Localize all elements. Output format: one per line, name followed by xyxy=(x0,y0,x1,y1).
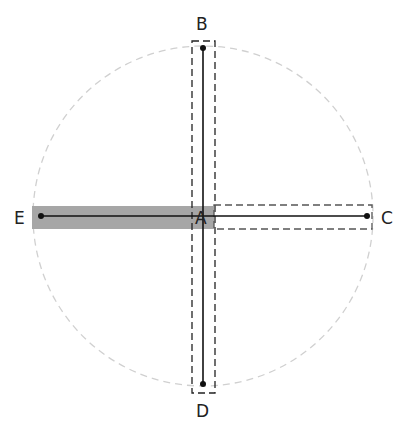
diagram-canvas: B D E C A xyxy=(0,0,404,427)
label-B: B xyxy=(196,14,208,34)
highlight-segment-EA xyxy=(32,206,214,229)
point-E xyxy=(38,213,44,219)
label-D: D xyxy=(196,401,209,421)
point-B xyxy=(200,45,206,51)
point-C xyxy=(364,213,370,219)
dashed-box-AC xyxy=(214,205,372,229)
label-E: E xyxy=(14,208,25,228)
point-D xyxy=(200,381,206,387)
label-C: C xyxy=(381,208,393,228)
label-A: A xyxy=(195,208,207,228)
